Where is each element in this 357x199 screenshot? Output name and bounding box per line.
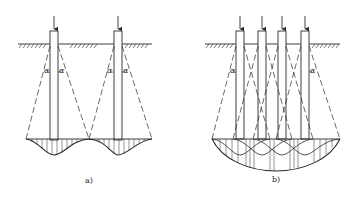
pile-stress-diagram: α α α α a)	[0, 0, 357, 199]
angle-alpha-label: α	[59, 66, 65, 75]
stress-spread-lines	[212, 46, 340, 139]
pile-1	[236, 31, 244, 139]
pile-2	[114, 31, 122, 140]
pile-3	[278, 31, 286, 139]
angle-alpha-label: α	[107, 66, 113, 75]
stress-distribution-curve	[26, 139, 152, 155]
angle-alpha-label: α	[123, 66, 129, 75]
combined-stress-curve	[212, 139, 340, 171]
stress-spread-lines	[26, 46, 152, 139]
panel-a-label: a)	[85, 176, 93, 185]
individual-stress-curves	[212, 139, 340, 155]
ground-hatch-icon	[206, 44, 339, 48]
ground-hatch-icon	[19, 44, 148, 48]
stress-hatching	[32, 139, 144, 155]
stress-hatching	[220, 139, 332, 171]
angle-alpha-label: α	[44, 66, 50, 75]
panel-b	[205, 16, 340, 171]
angle-alpha-label: α	[310, 66, 316, 75]
panel-a	[18, 16, 152, 155]
pile-2	[258, 31, 266, 139]
panel-b-label: b)	[272, 175, 280, 184]
angle-alpha-label: α	[230, 66, 236, 75]
pile-1	[50, 31, 58, 140]
pile-4	[301, 31, 309, 139]
